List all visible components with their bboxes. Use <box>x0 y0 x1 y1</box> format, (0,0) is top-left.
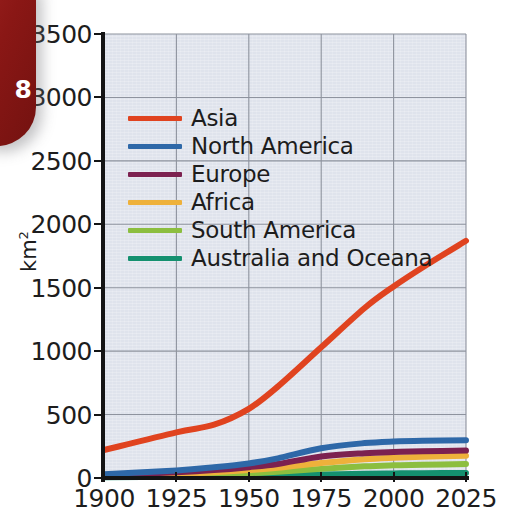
legend-color-swatch <box>128 144 182 149</box>
y-tick-mark <box>94 287 104 289</box>
legend-item[interactable]: Europe <box>128 160 432 188</box>
y-axis-title-exponent: 2 <box>16 231 31 239</box>
legend-label: Africa <box>191 189 255 215</box>
page-number-tab: 8 <box>0 0 36 146</box>
legend-label: Australia and Oceana <box>191 245 432 271</box>
x-tick-mark <box>175 472 177 482</box>
legend-color-swatch <box>128 228 182 233</box>
legend-item[interactable]: South America <box>128 216 432 244</box>
x-tick-label: 2025 <box>435 484 497 513</box>
y-tick-mark <box>94 160 104 162</box>
legend-label: Asia <box>191 105 238 131</box>
y-axis-title: km2 <box>16 231 41 272</box>
y-tick-mark <box>94 96 104 98</box>
y-axis-title-text: km <box>17 239 41 272</box>
y-tick-mark <box>94 414 104 416</box>
x-tick-label: 1950 <box>218 484 280 513</box>
x-tick-label: 1900 <box>73 484 135 513</box>
legend-item[interactable]: Africa <box>128 188 432 216</box>
y-tick-label: 500 <box>46 400 92 429</box>
legend-color-swatch <box>128 200 182 205</box>
x-tick-mark <box>103 472 105 482</box>
y-tick-label: 1500 <box>30 273 92 302</box>
page-number-text: 8 <box>15 77 32 102</box>
y-tick-label: 3000 <box>30 83 92 112</box>
legend-label: South America <box>191 217 356 243</box>
chart-figure: 0500100015002000250030003500 19001925195… <box>0 0 506 526</box>
y-tick-mark <box>94 223 104 225</box>
y-tick-mark <box>94 33 104 35</box>
legend-color-swatch <box>128 172 182 177</box>
y-tick-label: 3500 <box>30 20 92 49</box>
legend-item[interactable]: Australia and Oceana <box>128 244 432 272</box>
y-tick-label: 2500 <box>30 146 92 175</box>
x-axis-line <box>101 476 469 480</box>
x-tick-mark <box>465 472 467 482</box>
legend-color-swatch <box>128 116 182 121</box>
x-tick-label: 2000 <box>363 484 425 513</box>
legend-color-swatch <box>128 256 182 261</box>
x-tick-mark <box>320 472 322 482</box>
chart-legend: AsiaNorth AmericaEuropeAfricaSouth Ameri… <box>128 104 432 272</box>
x-tick-mark <box>393 472 395 482</box>
y-tick-label: 1000 <box>30 337 92 366</box>
legend-item[interactable]: North America <box>128 132 432 160</box>
y-tick-mark <box>94 350 104 352</box>
legend-label: Europe <box>191 161 270 187</box>
legend-label: North America <box>191 133 354 159</box>
x-tick-mark <box>248 472 250 482</box>
legend-item[interactable]: Asia <box>128 104 432 132</box>
x-tick-label: 1975 <box>290 484 352 513</box>
x-tick-label: 1925 <box>146 484 208 513</box>
